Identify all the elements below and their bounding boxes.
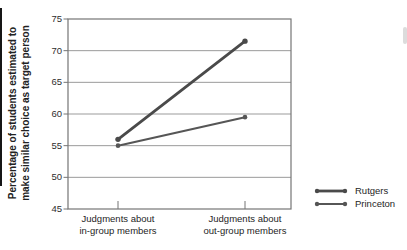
legend: RutgersPrinceton bbox=[313, 185, 395, 209]
x-category-label-line: Judgments about bbox=[56, 213, 180, 225]
legend-label-princeton: Princeton bbox=[355, 198, 395, 209]
legend-marker-princeton bbox=[313, 199, 349, 209]
legend-marker-rutgers bbox=[313, 186, 349, 196]
x-axis-category-labels: Judgments aboutin-group membersJudgments… bbox=[0, 0, 407, 250]
legend-item-rutgers: Rutgers bbox=[313, 185, 395, 196]
x-category-label-1: Judgments aboutout-group members bbox=[183, 213, 307, 237]
legend-dot-princeton-0 bbox=[315, 201, 319, 205]
legend-label-rutgers: Rutgers bbox=[355, 185, 388, 196]
x-category-label-line: in-group members bbox=[56, 225, 180, 237]
legend-dot-rutgers-0 bbox=[315, 188, 319, 192]
legend-dot-rutgers-1 bbox=[343, 188, 347, 192]
legend-dot-princeton-1 bbox=[343, 201, 347, 205]
figure: Percentage of students estimated to make… bbox=[0, 0, 407, 250]
legend-item-princeton: Princeton bbox=[313, 198, 395, 209]
x-category-label-0: Judgments aboutin-group members bbox=[56, 213, 180, 237]
x-category-label-line: Judgments about bbox=[183, 213, 307, 225]
x-category-label-line: out-group members bbox=[183, 225, 307, 237]
